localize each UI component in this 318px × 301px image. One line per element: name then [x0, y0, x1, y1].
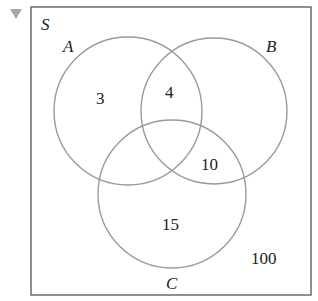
universe-label: S: [41, 15, 50, 34]
set-b-label: B: [266, 37, 277, 56]
venn-diagram: S A B C 3 4 10 15 100: [0, 0, 318, 301]
region-outside: 100: [251, 249, 277, 268]
region-bc: 10: [201, 155, 218, 174]
region-c-only: 15: [162, 215, 179, 234]
triangle-down-icon[interactable]: [10, 9, 22, 19]
set-c-circle: [98, 120, 246, 268]
region-ab: 4: [165, 83, 174, 102]
set-a-circle: [54, 37, 202, 185]
set-a-label: A: [62, 37, 74, 56]
region-a-only: 3: [96, 89, 105, 108]
set-c-label: C: [166, 274, 178, 293]
